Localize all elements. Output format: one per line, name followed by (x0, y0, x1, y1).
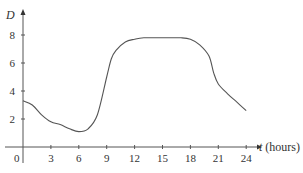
x-tick-label: 21 (213, 152, 224, 164)
data-curve (23, 38, 246, 132)
y-axis-arrow-icon (21, 9, 26, 15)
x-tick-label: 12 (129, 152, 140, 164)
x-tick-label: 15 (157, 152, 169, 164)
axes: 36912151821242468 (5, 9, 262, 164)
line-chart: 36912151821242468 D t(hours) 0 (0, 0, 303, 173)
x-axis-label: t(hours) (259, 140, 300, 154)
origin-label: 0 (14, 152, 20, 164)
x-tick-label: 24 (241, 152, 253, 164)
x-tick-label: 3 (48, 152, 54, 164)
y-axis-label: D (5, 8, 15, 22)
x-tick-label: 18 (185, 152, 197, 164)
y-tick-label: 4 (10, 85, 16, 97)
x-tick-label: 9 (104, 152, 110, 164)
y-tick-label: 8 (10, 29, 16, 41)
y-tick-label: 2 (10, 113, 16, 125)
y-tick-label: 6 (10, 57, 16, 69)
x-tick-label: 6 (76, 152, 82, 164)
